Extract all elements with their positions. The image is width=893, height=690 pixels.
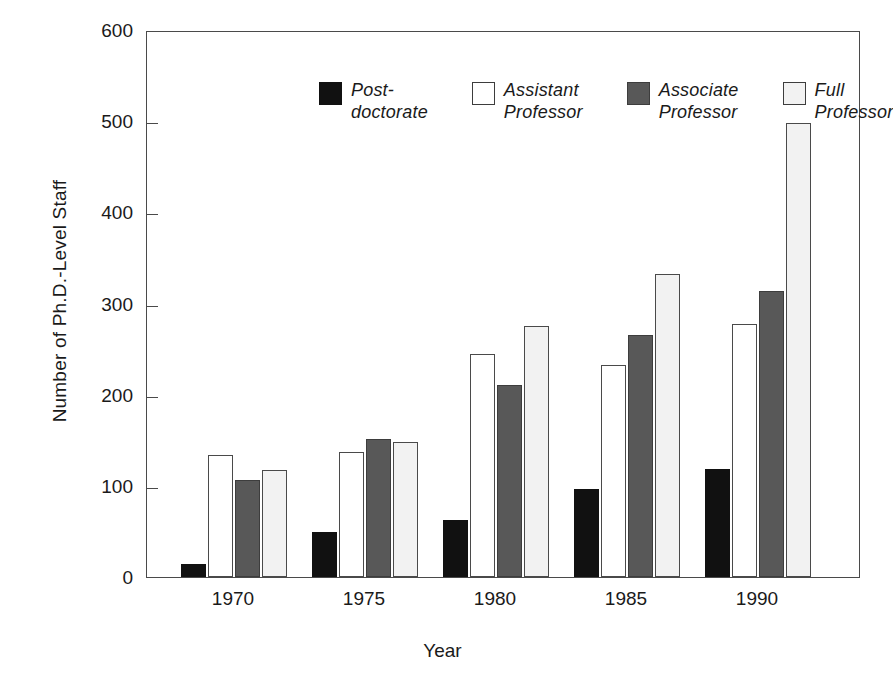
legend-entry: Post- doctorate bbox=[319, 80, 428, 124]
x-axis-title: Year bbox=[0, 640, 885, 662]
x-axis-tick-label: 1985 bbox=[566, 588, 686, 610]
x-axis-tick-label: 1970 bbox=[173, 588, 293, 610]
legend-entry: Assistant Professor bbox=[472, 80, 583, 124]
bar bbox=[393, 442, 418, 577]
y-axis-tick bbox=[147, 397, 158, 398]
bar bbox=[574, 489, 599, 577]
bar bbox=[235, 480, 260, 577]
y-axis-tick-label: 600 bbox=[43, 20, 133, 42]
bar bbox=[732, 324, 757, 577]
x-axis-tick-label: 1980 bbox=[435, 588, 555, 610]
legend-swatch-icon bbox=[783, 82, 806, 105]
bar bbox=[208, 455, 233, 577]
legend-entry: Associate Professor bbox=[627, 80, 739, 124]
y-axis-tick-label: 400 bbox=[43, 202, 133, 224]
bar bbox=[601, 365, 626, 577]
bar bbox=[655, 274, 680, 577]
bar bbox=[262, 470, 287, 577]
y-axis-tick-label: 0 bbox=[43, 567, 133, 589]
legend-label: Post- doctorate bbox=[351, 80, 428, 124]
x-axis-tick-label: 1990 bbox=[697, 588, 817, 610]
bar bbox=[181, 564, 206, 577]
y-axis-tick-label: 100 bbox=[43, 476, 133, 498]
y-axis-tick-label: 500 bbox=[43, 111, 133, 133]
bar bbox=[366, 439, 391, 577]
legend-label: Associate Professor bbox=[659, 80, 739, 124]
bar bbox=[628, 335, 653, 577]
bar bbox=[705, 469, 730, 577]
y-axis-tick-label: 300 bbox=[43, 294, 133, 316]
y-axis-tick bbox=[147, 488, 158, 489]
bar bbox=[786, 123, 811, 577]
bar bbox=[443, 520, 468, 577]
x-axis-tick-label: 1975 bbox=[304, 588, 424, 610]
legend-swatch-icon bbox=[319, 82, 342, 105]
bar bbox=[524, 326, 549, 577]
legend-label: Full Professor bbox=[815, 80, 893, 124]
bar bbox=[312, 532, 337, 577]
bar bbox=[759, 291, 784, 577]
legend-swatch-icon bbox=[472, 82, 495, 105]
chart-legend: Post- doctorateAssistant ProfessorAssoci… bbox=[319, 80, 893, 124]
legend-entry: Full Professor bbox=[783, 80, 893, 124]
y-axis-tick bbox=[147, 214, 158, 215]
bar bbox=[470, 354, 495, 577]
y-axis-tick bbox=[147, 123, 158, 124]
legend-label: Assistant Professor bbox=[504, 80, 583, 124]
y-axis-tick-label: 200 bbox=[43, 385, 133, 407]
plot-area: Post- doctorateAssistant ProfessorAssoci… bbox=[146, 31, 860, 578]
bar bbox=[339, 452, 364, 577]
legend-swatch-icon bbox=[627, 82, 650, 105]
y-axis-tick bbox=[147, 306, 158, 307]
bar bbox=[497, 385, 522, 577]
